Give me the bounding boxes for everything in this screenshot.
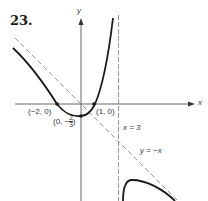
point-1-0	[92, 102, 96, 106]
point-label-prefix: (0, −	[53, 117, 69, 126]
graph	[0, 0, 208, 201]
point-0-neg2third	[79, 114, 83, 118]
y-axis-arrow-icon	[79, 18, 84, 25]
point-label-1-0: (1, 0)	[96, 107, 115, 116]
y-axis	[79, 18, 84, 201]
point-label-0-neg2third: (0, −23)	[53, 115, 76, 128]
point-label-neg2-0: (−2, 0)	[28, 107, 51, 116]
point-label-suffix: )	[73, 117, 76, 126]
point-neg2-0	[55, 102, 59, 106]
y-axis-label: y	[77, 6, 81, 15]
curve-right-branch	[123, 180, 175, 201]
oblique-asymptote-label: y = −x	[140, 146, 162, 155]
vertical-asymptote-label: x = 3	[123, 123, 141, 132]
oblique-asymptote	[15, 38, 178, 201]
curve-left-branch	[13, 18, 113, 116]
x-axis-label: x	[198, 98, 202, 107]
x-axis	[15, 102, 195, 107]
x-axis-arrow-icon	[188, 102, 195, 107]
